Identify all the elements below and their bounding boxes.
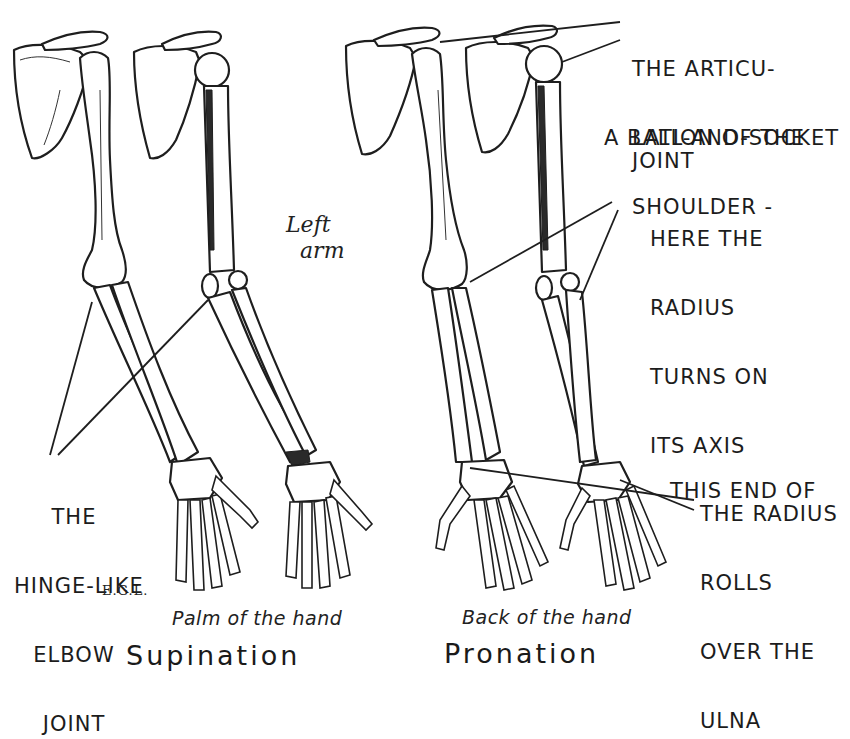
label-line: JOINT [632, 150, 694, 173]
hand-back [560, 462, 666, 590]
label-elbow-joint: THE HINGE-LIKE ELBOW JOINT [14, 460, 134, 739]
label-line: THE RADIUS [700, 503, 838, 526]
scapula [14, 45, 90, 158]
leader-radius-axis-2 [580, 210, 618, 300]
label-line: RADIUS [650, 297, 769, 320]
label-line: ELBOW [14, 644, 134, 667]
humeral-head [526, 46, 562, 82]
scapula [466, 42, 534, 152]
caption-back: Back of the hand [462, 606, 632, 628]
acromion [42, 32, 108, 50]
humerus [412, 48, 467, 290]
label-line: ROLLS [700, 572, 838, 595]
scapula [134, 46, 200, 158]
hand-palm [286, 462, 372, 588]
label-line: THE [14, 506, 134, 529]
humerus [80, 52, 126, 288]
hand-back [436, 460, 548, 590]
arm-supination-side [134, 32, 372, 588]
label-line: THE ARTICU- [632, 58, 805, 81]
hand-palm [170, 458, 258, 590]
humeral-head [195, 53, 229, 87]
label-line: HERE THE [650, 228, 769, 251]
side-note-line: Left [286, 212, 345, 238]
title-supination: Supination [126, 640, 300, 671]
leader-elbow-1 [50, 302, 92, 455]
caption-palm: Palm of the hand [172, 607, 342, 629]
acromion [162, 32, 221, 50]
radius [112, 282, 198, 465]
label-line: OVER THE [700, 641, 838, 664]
leader-shoulder-2 [562, 40, 620, 62]
label-line: ULNA [700, 710, 838, 733]
acromion [374, 28, 440, 46]
side-note-left-arm: Left arm [286, 212, 345, 264]
scapula [346, 41, 416, 154]
artist-signature: E.G.L. [102, 583, 148, 598]
label-line: TURNS ON [650, 366, 769, 389]
side-note-line: arm [286, 238, 345, 264]
label-line: JOINT [14, 713, 134, 736]
title-pronation: Pronation [444, 638, 599, 669]
radius [208, 292, 310, 462]
label-radius-end-rest: THE RADIUS ROLLS OVER THE ULNA [700, 457, 838, 739]
